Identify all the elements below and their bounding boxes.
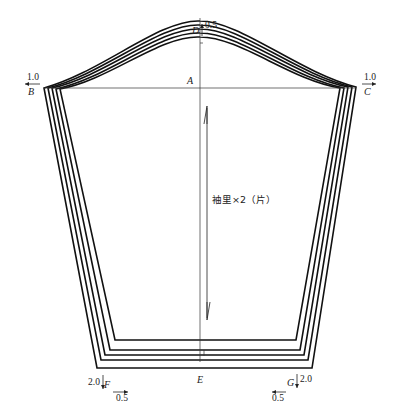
piece-label: 袖里×2（片） <box>212 194 276 205</box>
svg-text:1.0: 1.0 <box>27 72 39 82</box>
point-b-label: B <box>28 86 34 97</box>
point-d-label: D <box>191 25 200 36</box>
svg-text:0.5: 0.5 <box>272 393 284 403</box>
point-a-label: A <box>186 75 194 86</box>
grainline-arrow-icon <box>204 106 210 320</box>
svg-text:1.0: 1.0 <box>364 72 376 82</box>
point-f-label: F <box>103 379 111 390</box>
point-g-label: G <box>287 377 294 388</box>
sleeve-lining-pattern: D A B C E F G 0.5 1.0 1.0 2.0 0.5 0.5 2.… <box>0 0 395 419</box>
point-c-label: C <box>364 86 371 97</box>
svg-text:0.5: 0.5 <box>205 20 217 30</box>
svg-text:0.5: 0.5 <box>116 393 128 403</box>
point-e-label: E <box>196 374 203 385</box>
svg-text:2.0: 2.0 <box>88 377 100 387</box>
increment-b: 1.0 <box>25 72 40 86</box>
svg-text:2.0: 2.0 <box>300 374 312 384</box>
increment-c: 1.0 <box>362 72 376 86</box>
